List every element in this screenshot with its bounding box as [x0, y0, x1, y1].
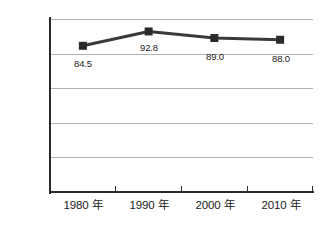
data-point-marker: [79, 42, 87, 50]
line-chart: 100% 80% 60% 40% 20% 0% 1980 年 1990 年 20…: [0, 0, 330, 230]
data-point-marker: [276, 36, 284, 44]
series-line-group: [0, 0, 330, 230]
data-point-marker: [210, 34, 218, 42]
point-label-1980: 84.5: [53, 58, 113, 69]
series-line: [83, 31, 280, 45]
data-point-marker: [145, 27, 153, 35]
point-label-1990: 92.8: [119, 42, 179, 53]
point-label-2010: 88.0: [251, 53, 311, 64]
point-label-2000: 89.0: [185, 51, 245, 62]
